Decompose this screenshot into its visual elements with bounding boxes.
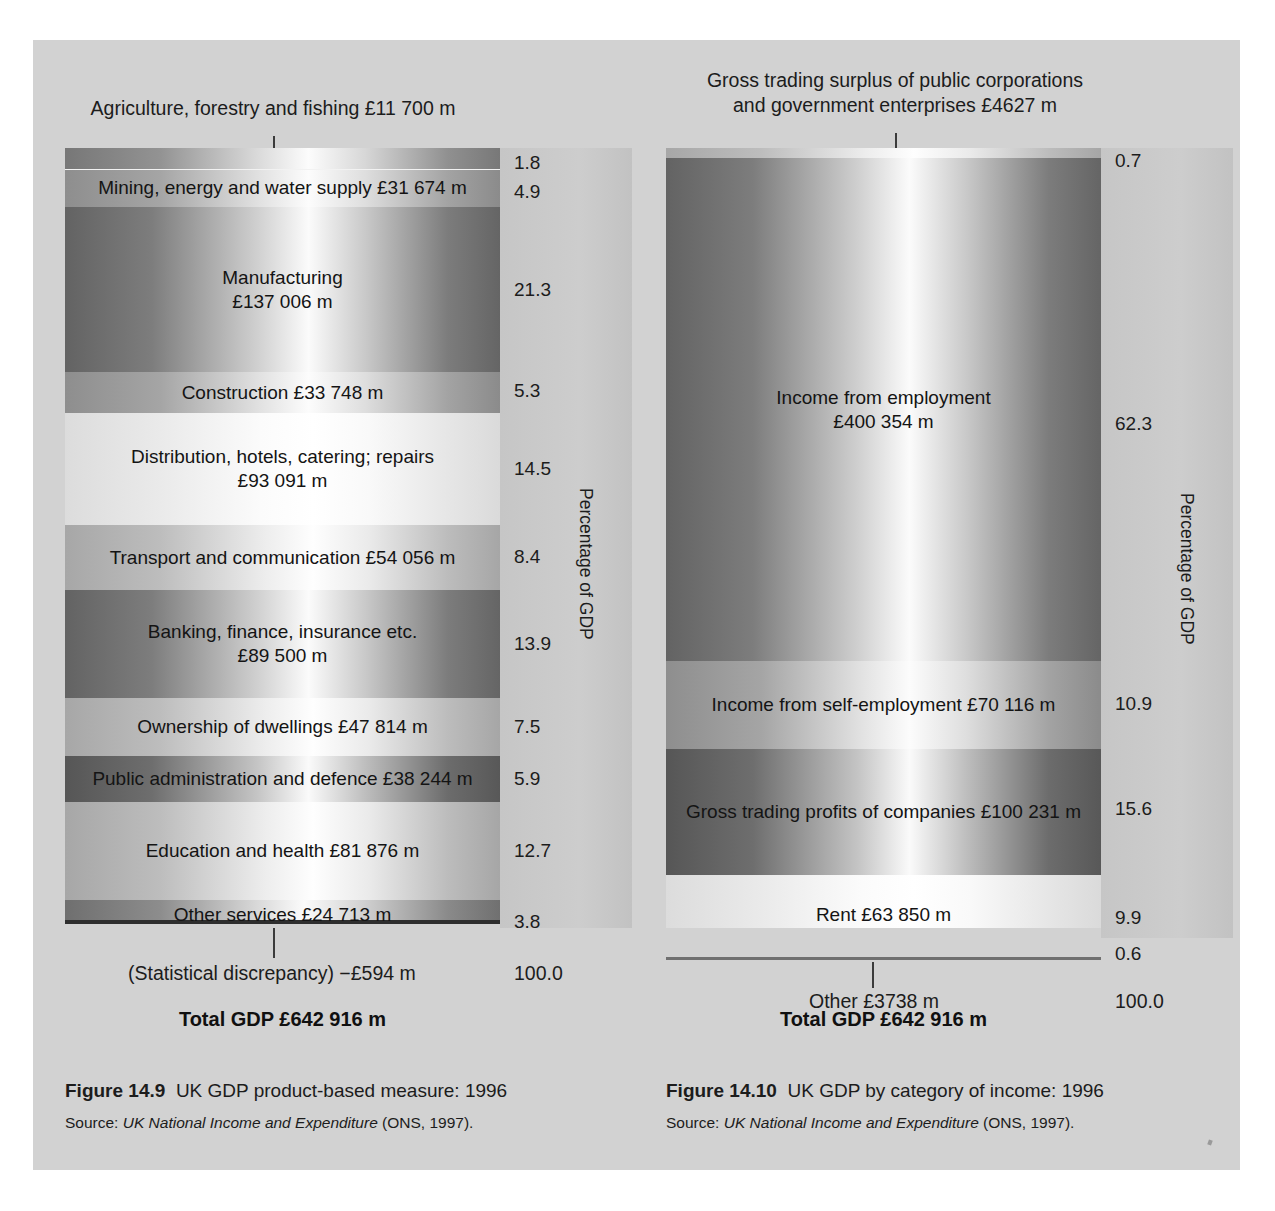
left-top-callout: Agriculture, forestry and fishing £11 70… <box>63 96 483 121</box>
left-segment-ownership-dwellings[interactable]: Ownership of dwellings £47 814 m <box>65 698 500 756</box>
left-source-prefix: Source: <box>65 1114 118 1131</box>
left-pct-transport: 8.4 <box>514 546 540 568</box>
right-figure-caption: Figure 14.10 UK GDP by category of incom… <box>666 1080 1104 1102</box>
left-pct-ownership: 7.5 <box>514 716 540 738</box>
right-total-percentage: 100.0 <box>1115 990 1164 1013</box>
left-segment-banking-finance[interactable]: Banking, finance, insurance etc. £89 500… <box>65 590 500 698</box>
right-pct-income-employment: 62.3 <box>1115 413 1152 435</box>
right-bottom-leader-line <box>872 962 874 988</box>
left-pct-other-services: 3.8 <box>514 911 540 933</box>
left-total-percentage: 100.0 <box>514 962 563 985</box>
right-source-title: UK National Income and Expenditure <box>724 1114 979 1131</box>
right-figure-source: Source: UK National Income and Expenditu… <box>666 1114 1074 1132</box>
left-figure-caption: Figure 14.9 UK GDP product-based measure… <box>65 1080 507 1102</box>
left-figure-source: Source: UK National Income and Expenditu… <box>65 1114 473 1132</box>
left-segment-manufacturing[interactable]: Manufacturing £137 006 m <box>65 207 500 372</box>
right-segment-gross-trading-profits[interactable]: Gross trading profits of companies £100 … <box>666 749 1101 875</box>
left-pct-mining: 4.9 <box>514 181 540 203</box>
left-axis-title: Percentage of GDP <box>575 488 596 640</box>
left-pct-distribution: 14.5 <box>514 458 551 480</box>
left-segment-distribution-hotels[interactable]: Distribution, hotels, catering; repairs … <box>65 413 500 525</box>
right-pct-rent: 9.9 <box>1115 907 1141 929</box>
left-segment-mining-energy-water[interactable]: Mining, energy and water supply £31 674 … <box>65 169 500 207</box>
left-pct-public-administration: 5.9 <box>514 768 540 790</box>
left-segment-transport-communication[interactable]: Transport and communication £54 056 m <box>65 525 500 590</box>
left-bottom-callout: (Statistical discrepancy) −£594 m <box>128 962 416 985</box>
right-axis-title: Percentage of GDP <box>1176 493 1197 645</box>
figure-14-10: Gross trading surplus of public corporat… <box>633 40 1240 1170</box>
right-source-prefix: Source: <box>666 1114 719 1131</box>
left-source-title: UK National Income and Expenditure <box>123 1114 378 1131</box>
right-segment-income-from-self-employment[interactable]: Income from self-employment £70 116 m <box>666 661 1101 749</box>
page-speck <box>1207 1139 1212 1145</box>
left-stacked-bar: Mining, energy and water supply £31 674 … <box>65 148 500 923</box>
right-pct-public-corporations: 0.7 <box>1115 150 1141 172</box>
left-percentage-column: 1.8 4.9 21.3 5.3 14.5 8.4 13.9 7.5 5.9 1… <box>500 148 632 928</box>
right-segment-rent[interactable]: Rent £63 850 m <box>666 875 1101 928</box>
right-percentage-column: 0.7 62.3 10.9 15.6 9.9 0.6 Percentage of… <box>1101 148 1233 938</box>
figure-page-panel: Agriculture, forestry and fishing £11 70… <box>33 40 1240 1170</box>
right-bar-baseline <box>666 957 1101 960</box>
right-segment-public-corporations-surplus[interactable]: 0.7 <box>666 148 1101 158</box>
right-source-suffix: (ONS, 1997). <box>983 1114 1074 1131</box>
right-segment-income-from-employment[interactable]: Income from employment £400 354 m <box>666 158 1101 661</box>
left-pct-banking: 13.9 <box>514 633 551 655</box>
left-bottom-leader-line <box>273 928 275 958</box>
right-figure-number: Figure 14.10 <box>666 1080 777 1101</box>
right-pct-trading-profits: 15.6 <box>1115 798 1152 820</box>
left-segment-agriculture[interactable] <box>65 148 500 169</box>
left-figure-number: Figure 14.9 <box>65 1080 165 1101</box>
left-pct-education: 12.7 <box>514 840 551 862</box>
left-segment-public-administration[interactable]: Public administration and defence £38 24… <box>65 756 500 802</box>
left-segment-education-health[interactable]: Education and health £81 876 m <box>65 802 500 900</box>
left-figure-title: UK GDP product-based measure: 1996 <box>176 1080 507 1101</box>
left-pct-construction: 5.3 <box>514 380 540 402</box>
left-source-suffix: (ONS, 1997). <box>382 1114 473 1131</box>
right-stacked-bar: 0.7 Income from employment £400 354 m In… <box>666 148 1101 928</box>
left-total-gdp: Total GDP £642 916 m <box>65 1008 500 1031</box>
right-pct-other: 0.6 <box>1115 943 1141 965</box>
left-pct-manufacturing: 21.3 <box>514 279 551 301</box>
left-pct-agriculture: 1.8 <box>514 152 540 174</box>
right-figure-title: UK GDP by category of income: 1996 <box>787 1080 1103 1101</box>
right-top-callout: Gross trading surplus of public corporat… <box>655 68 1135 118</box>
figure-14-9: Agriculture, forestry and fishing £11 70… <box>33 40 633 1170</box>
right-pct-self-employment: 10.9 <box>1115 693 1152 715</box>
right-total-gdp: Total GDP £642 916 m <box>666 1008 1101 1031</box>
left-segment-construction[interactable]: Construction £33 748 m <box>65 372 500 413</box>
